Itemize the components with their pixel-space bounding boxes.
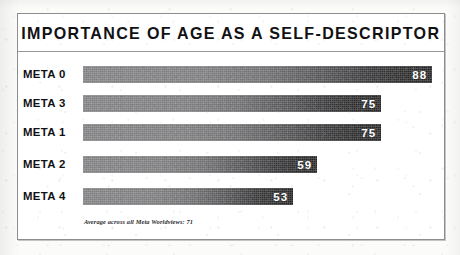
- bar-value-label: 59: [297, 156, 312, 173]
- bar-meta-2: 59: [83, 156, 317, 173]
- bar-value-label: 75: [361, 95, 376, 112]
- chart-screenshot: IMPORTANCE OF AGE AS A SELF-DESCRIPTOR M…: [0, 0, 460, 255]
- bar-meta-3: 75: [83, 95, 381, 112]
- chart-title-block: IMPORTANCE OF AGE AS A SELF-DESCRIPTOR: [18, 14, 444, 52]
- bar-category-label: META 2: [23, 156, 81, 173]
- chart-frame: IMPORTANCE OF AGE AS A SELF-DESCRIPTOR M…: [17, 13, 445, 240]
- bar-value-label: 88: [412, 66, 427, 83]
- bar-category-label: META 4: [23, 188, 81, 205]
- bar-row: META 3 75: [18, 95, 444, 112]
- bar-meta-0: 88: [83, 66, 432, 83]
- bar-value-label: 75: [361, 124, 376, 141]
- bar-meta-4: 53: [83, 188, 293, 205]
- bar-chart-plot-area: META 0 88 META 3 75 META 1 75 META 2: [18, 52, 444, 239]
- bar-category-label: META 0: [23, 66, 81, 83]
- chart-footnote: Average across all Meta Worldviews: 71: [84, 218, 193, 225]
- bar-category-label: META 3: [23, 95, 81, 112]
- bar-row: META 2 59: [18, 156, 444, 173]
- bar-category-label: META 1: [23, 124, 81, 141]
- bar-row: META 4 53: [18, 188, 444, 205]
- bar-row: META 1 75: [18, 124, 444, 141]
- page-title: IMPORTANCE OF AGE AS A SELF-DESCRIPTOR: [21, 24, 440, 43]
- bar-value-label: 53: [273, 188, 288, 205]
- bar-meta-1: 75: [83, 124, 381, 141]
- bar-row: META 0 88: [18, 66, 444, 83]
